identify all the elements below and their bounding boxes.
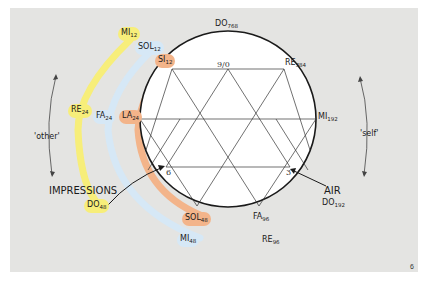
- air-fa-24: FA24: [93, 110, 115, 124]
- impressions-re-24: RE24: [68, 104, 92, 118]
- point-3: 3: [286, 168, 291, 177]
- self-arrow: [360, 78, 367, 175]
- air-mi-48: MI48: [177, 233, 199, 247]
- other-arrow: [49, 76, 56, 175]
- self-label: 'self': [360, 130, 379, 138]
- impressions-do-48: DO48: [84, 199, 109, 213]
- note-si-12: SI12: [155, 54, 175, 68]
- point-6: 6: [166, 168, 171, 177]
- note-re-384: RE384: [285, 59, 306, 69]
- air-do-192: DO192: [322, 199, 345, 209]
- note-do-768: DO768: [215, 20, 238, 30]
- note-mi-192: MI192: [318, 113, 338, 123]
- note-fa-96: FA96: [253, 213, 269, 223]
- air-re-96: RE96: [262, 236, 280, 246]
- note-sol-48: SOL48: [182, 212, 211, 226]
- air-arrow: [292, 170, 326, 186]
- impressions-mi-12: MI12: [118, 27, 140, 41]
- enneagram-diagram: [0, 0, 429, 283]
- page-number: 6: [410, 263, 414, 270]
- note-la-24: LA24: [119, 110, 142, 124]
- air-label: AIR: [324, 186, 341, 196]
- point-9-0: 9/0: [217, 60, 230, 69]
- other-label: 'other': [34, 133, 60, 141]
- impressions-label: IMPRESSIONS: [49, 186, 117, 196]
- air-sol-12: SOL12: [135, 41, 164, 55]
